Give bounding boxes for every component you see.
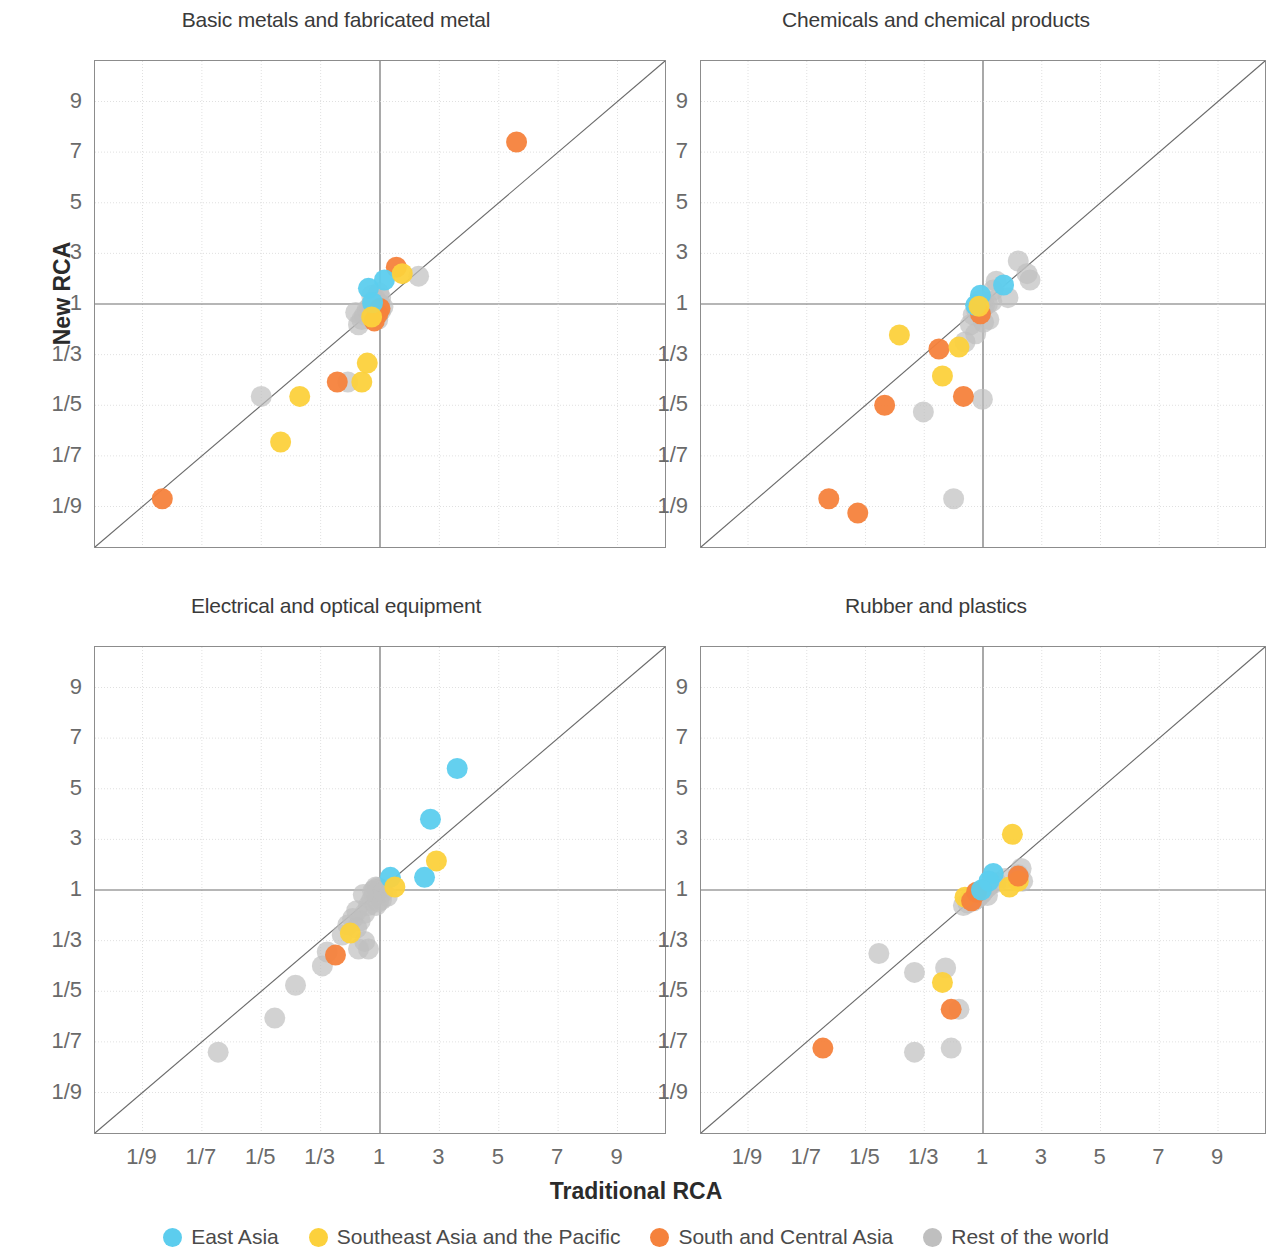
data-point (1020, 269, 1041, 290)
data-point (351, 372, 372, 393)
data-point (251, 386, 272, 407)
data-point (1008, 866, 1029, 887)
y-tick-label: 3 (8, 825, 82, 851)
x-tick-label: 1/9 (126, 1144, 157, 1170)
y-tick-label: 1/5 (8, 977, 82, 1003)
y-tick-label: 1 (614, 290, 688, 316)
data-point (904, 1042, 925, 1063)
legend-swatch-icon (163, 1228, 182, 1247)
panel-basic-metals: Basic metals and fabricated metal 975311… (0, 0, 672, 580)
y-tick-label: 7 (8, 724, 82, 750)
y-tick-label: 1/7 (8, 1028, 82, 1054)
legend-swatch-icon (309, 1228, 328, 1247)
legend: East AsiaSoutheast Asia and the PacificS… (0, 1225, 1272, 1249)
plot-canvas (701, 647, 1265, 1133)
y-tick-label: 1/9 (8, 493, 82, 519)
data-point (285, 975, 306, 996)
data-point (868, 943, 889, 964)
x-tick-label: 1/3 (908, 1144, 939, 1170)
y-tick-label: 9 (614, 674, 688, 700)
data-point (289, 386, 310, 407)
plot-area (94, 60, 666, 548)
x-tick-label: 3 (1035, 1144, 1047, 1170)
data-point (993, 275, 1014, 296)
data-point (818, 488, 839, 509)
data-point (941, 999, 962, 1020)
data-point (208, 1042, 229, 1063)
data-point (812, 1038, 833, 1059)
y-tick-label: 7 (8, 138, 82, 164)
x-tick-label: 1 (976, 1144, 988, 1170)
y-tick-label: 7 (614, 138, 688, 164)
data-point (874, 395, 895, 416)
plot-canvas (95, 647, 665, 1133)
data-point (913, 401, 934, 422)
y-tick-label: 1/9 (8, 1079, 82, 1105)
data-point (325, 945, 346, 966)
data-point (392, 263, 413, 284)
legend-swatch-icon (923, 1228, 942, 1247)
x-tick-label: 1/3 (304, 1144, 335, 1170)
data-point (327, 372, 348, 393)
y-tick-label: 1/3 (614, 341, 688, 367)
legend-item-rest_of_world[interactable]: Rest of the world (923, 1225, 1109, 1249)
x-tick-label: 1/9 (732, 1144, 763, 1170)
x-axis-title: Traditional RCA (0, 1178, 1272, 1205)
data-point (384, 876, 405, 897)
y-tick-label: 1/3 (8, 341, 82, 367)
y-tick-label: 1/5 (8, 391, 82, 417)
y-tick-label: 5 (8, 189, 82, 215)
panel-title: Chemicals and chemical products (600, 8, 1272, 32)
data-point (357, 353, 378, 374)
data-point (972, 389, 993, 410)
y-tick-label: 1/9 (614, 493, 688, 519)
data-point (426, 850, 447, 871)
legend-label: Southeast Asia and the Pacific (337, 1225, 621, 1249)
data-point (948, 337, 969, 358)
data-point (928, 339, 949, 360)
plot-area (700, 646, 1266, 1134)
x-tick-label: 1/7 (186, 1144, 217, 1170)
panel-title: Rubber and plastics (600, 594, 1272, 618)
x-tick-label: 7 (1152, 1144, 1164, 1170)
y-tick-label: 5 (614, 775, 688, 801)
y-tick-label: 9 (8, 674, 82, 700)
panel-title: Basic metals and fabricated metal (0, 8, 672, 32)
y-tick-label: 1 (614, 876, 688, 902)
y-tick-label: 1 (8, 290, 82, 316)
data-point (1002, 824, 1023, 845)
legend-item-south_central_asia[interactable]: South and Central Asia (650, 1225, 893, 1249)
data-point (971, 880, 992, 901)
legend-label: East Asia (191, 1225, 279, 1249)
y-tick-label: 1/7 (8, 442, 82, 468)
data-point (847, 503, 868, 524)
data-point (889, 324, 910, 345)
y-tick-label: 3 (614, 239, 688, 265)
x-tick-label: 9 (1211, 1144, 1223, 1170)
plot-canvas (701, 61, 1265, 547)
legend-item-southeast_asia[interactable]: Southeast Asia and the Pacific (309, 1225, 621, 1249)
data-point (270, 431, 291, 452)
data-point (340, 923, 361, 944)
y-tick-label: 9 (8, 88, 82, 114)
x-tick-label: 3 (432, 1144, 444, 1170)
legend-item-east_asia[interactable]: East Asia (163, 1225, 279, 1249)
panel-electrical: Electrical and optical equipment 975311/… (0, 580, 672, 1180)
plot-canvas (95, 61, 665, 547)
data-point (152, 488, 173, 509)
y-tick-label: 1/7 (614, 1028, 688, 1054)
panel-rubber: Rubber and plastics 975311/31/51/71/91/9… (600, 580, 1272, 1180)
y-tick-label: 1/3 (614, 927, 688, 953)
x-tick-label: 1 (373, 1144, 385, 1170)
data-point (932, 366, 953, 387)
data-point (932, 972, 953, 993)
data-point (346, 900, 367, 921)
plot-area (700, 60, 1266, 548)
x-tick-label: 1/5 (245, 1144, 276, 1170)
legend-label: Rest of the world (951, 1225, 1109, 1249)
y-tick-label: 5 (614, 189, 688, 215)
x-tick-label: 5 (1093, 1144, 1105, 1170)
data-point (904, 962, 925, 983)
y-tick-label: 5 (8, 775, 82, 801)
y-tick-label: 9 (614, 88, 688, 114)
